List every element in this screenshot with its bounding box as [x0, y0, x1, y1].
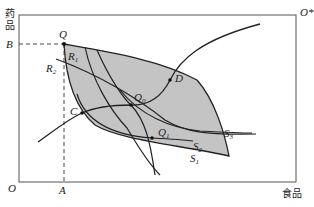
label-R2: R2	[45, 62, 57, 76]
point-Q1	[150, 136, 154, 140]
point-C	[80, 111, 84, 115]
edgeworth-box-diagram: 药 品 食品 O O* B A Q C D Q0 Q1 R1 R2 S1 S2 …	[0, 0, 314, 207]
label-S1: S1	[190, 152, 199, 166]
tick-A: A	[58, 184, 66, 196]
label-C: C	[70, 105, 78, 117]
x-axis-label: 食品	[282, 187, 302, 199]
y-axis-label: 药	[5, 8, 15, 19]
point-Q	[62, 42, 66, 46]
label-Q: Q	[59, 28, 67, 40]
y-axis-label-2: 品	[5, 20, 15, 31]
label-S3: S3	[224, 127, 234, 141]
point-Q0	[129, 103, 133, 107]
origin-O-star: O*	[300, 6, 314, 18]
label-D: D	[174, 72, 183, 84]
tick-B: B	[6, 38, 13, 50]
origin-O: O	[8, 182, 16, 194]
point-D	[168, 78, 172, 82]
